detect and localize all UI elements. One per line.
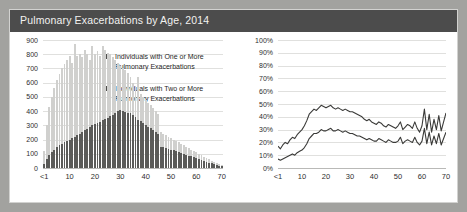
y-axis-tick-label: 100	[10, 150, 38, 157]
y-axis-tick-label: 10%	[238, 152, 273, 159]
y-axis-tick-label: 600	[10, 79, 38, 86]
x-axis-tick-label: <1	[32, 172, 56, 181]
x-axis-tick-label: 70	[434, 172, 458, 181]
y-axis-tick-label: 200	[10, 136, 38, 143]
x-axis-tick-label: 60	[410, 172, 434, 181]
y-axis-tick-label: 80%	[238, 62, 273, 69]
title-bar: Pulmonary Exacerbations by Age, 2014	[10, 10, 457, 32]
y-axis-tick-label: 400	[10, 108, 38, 115]
y-axis-tick-label: 50%	[238, 101, 273, 108]
y-axis-tick-label: 300	[10, 122, 38, 129]
page-title: Pulmonary Exacerbations by Age, 2014	[20, 14, 209, 26]
y-axis-tick-label: 0%	[238, 165, 273, 172]
x-axis-tick-label: 10	[290, 172, 314, 181]
x-axis-tick-label: 40	[134, 172, 158, 181]
chart-panel: Pulmonary Exacerbations by Age, 2014 010…	[9, 9, 458, 203]
x-axis-tick-label: 60	[184, 172, 208, 181]
y-axis-tick-label: 90%	[238, 49, 273, 56]
legend-label: Individuals with One or More Pulmonary E…	[115, 52, 216, 71]
x-axis-tick-label: 30	[338, 172, 362, 181]
y-axis-tick-label: 20%	[238, 139, 273, 146]
y-axis-tick-label: 800	[10, 51, 38, 58]
x-axis-line	[43, 168, 223, 169]
x-axis-tick-label: 20	[314, 172, 338, 181]
y-axis-tick-label: 30%	[238, 126, 273, 133]
y-axis-tick-label: 100%	[238, 37, 273, 44]
x-axis-tick-label: 70	[210, 172, 234, 181]
figure-frame: Pulmonary Exacerbations by Age, 2014 010…	[0, 0, 467, 212]
x-axis-tick-label: <1	[266, 172, 290, 181]
bar	[221, 166, 223, 168]
x-axis-tick-label: 30	[108, 172, 132, 181]
y-axis-tick-label: 0	[10, 165, 38, 172]
y-axis-tick-label: 500	[10, 93, 38, 100]
y-axis-tick-label: 900	[10, 37, 38, 44]
x-axis-tick-label: 50	[386, 172, 410, 181]
line-series-group	[278, 40, 446, 168]
x-axis-tick-label: 40	[362, 172, 386, 181]
x-axis-tick-label: 50	[159, 172, 183, 181]
y-axis-tick-label: 60%	[238, 88, 273, 95]
y-axis-tick-label: 40%	[238, 113, 273, 120]
line-chart-plot-area	[278, 40, 446, 168]
gridline	[43, 40, 223, 41]
line-series	[278, 128, 446, 160]
x-axis-tick-label: 10	[58, 172, 82, 181]
line-chart-percent-by-age: 0%10%20%30%40%50%60%70%80%90%100%<110203…	[238, 32, 459, 204]
y-axis-tick-label: 700	[10, 65, 38, 72]
x-axis-line	[278, 168, 446, 169]
y-axis-tick-label: 70%	[238, 75, 273, 82]
bar-chart-counts-by-age: 0100200300400500600700800900<11020304050…	[10, 32, 238, 204]
x-axis-tick-label: 20	[83, 172, 107, 181]
